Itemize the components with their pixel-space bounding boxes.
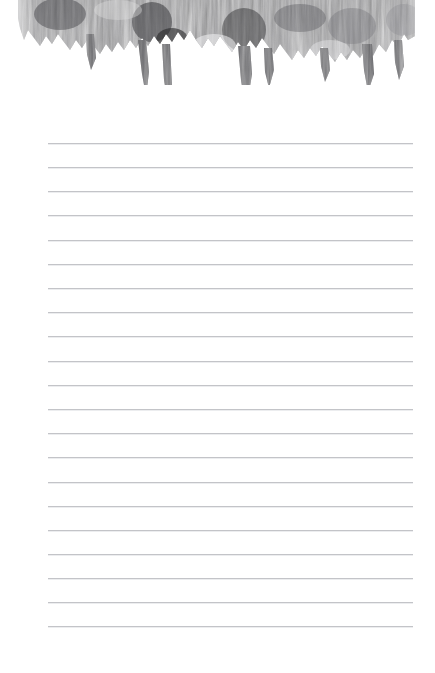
lined-note-page bbox=[0, 0, 435, 673]
writing-area[interactable] bbox=[48, 143, 414, 627]
